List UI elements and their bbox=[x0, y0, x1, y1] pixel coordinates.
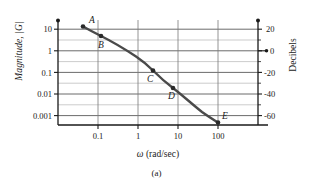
x-tick-label-1: 1 bbox=[124, 132, 152, 141]
y-tick-label-right-2: -20 bbox=[264, 69, 275, 78]
axis-arrow-caps bbox=[56, 19, 268, 53]
data-point-d bbox=[171, 86, 176, 91]
point-label-a: A bbox=[89, 16, 95, 26]
x-tick-label-0: 0.1 bbox=[84, 132, 112, 141]
x-axis-units: (rad/sec) bbox=[144, 149, 180, 159]
data-point-c bbox=[151, 68, 156, 73]
x-tick-label-2: 10 bbox=[164, 132, 192, 141]
y-axis-title-right: Decibels bbox=[288, 0, 298, 110]
data-point-b bbox=[99, 34, 104, 39]
y-tick-label-right-1: 0 bbox=[270, 47, 274, 56]
point-label-d: D bbox=[168, 92, 175, 102]
right-axis-cap-icon bbox=[256, 19, 260, 23]
x-tick-label-3: 100 bbox=[204, 132, 232, 141]
y-tick-label-left-2: 0.1 bbox=[16, 69, 52, 78]
data-point-a bbox=[81, 24, 86, 29]
y-tick-label-left-1: 1 bbox=[16, 47, 52, 56]
point-label-c: C bbox=[147, 75, 153, 85]
major-horizontal-gridlines bbox=[58, 29, 258, 115]
y-tick-label-left-0: 10 bbox=[16, 25, 52, 34]
y-tick-label-right-4: -60 bbox=[264, 112, 275, 121]
y-tick-label-left-4: 0.001 bbox=[12, 112, 52, 121]
point-label-e: E bbox=[222, 112, 228, 122]
data-point-e bbox=[216, 120, 221, 125]
y-tick-label-right-0: 20 bbox=[266, 25, 275, 34]
omega-symbol: ω bbox=[137, 149, 144, 159]
y-tick-label-left-3: 0.01 bbox=[16, 90, 52, 99]
left-axis-cap-icon bbox=[56, 19, 60, 23]
figure-caption: (a) bbox=[0, 168, 313, 178]
point-label-b: B bbox=[98, 41, 104, 51]
y-tick-label-right-3: -40 bbox=[264, 90, 275, 99]
x-axis-title: ω (rad/sec) bbox=[57, 149, 259, 159]
bode-magnitude-figure: Magnitude, |G| Decibels ω (rad/sec) (a) … bbox=[0, 0, 313, 185]
